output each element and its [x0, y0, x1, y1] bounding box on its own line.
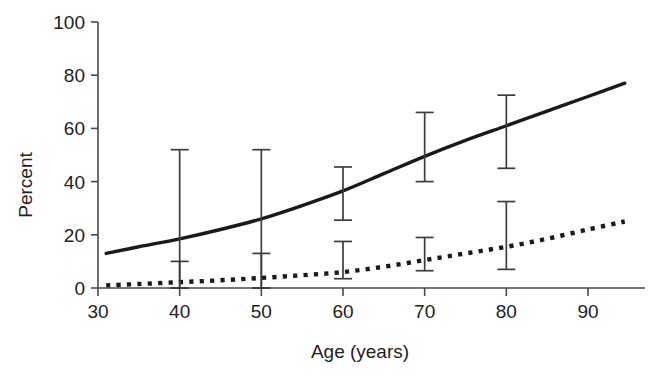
- y-axis-tick-label: 0: [74, 278, 85, 299]
- x-axis-tick-label: 40: [169, 301, 190, 322]
- error-bars-group: [171, 95, 516, 288]
- x-axis-title: Age (years): [311, 341, 409, 362]
- data-series-group: [106, 83, 625, 285]
- error-bar: [416, 112, 434, 181]
- error-bar: [497, 202, 515, 270]
- x-axis-tick-label: 70: [414, 301, 435, 322]
- y-axis-tick-label: 20: [64, 225, 85, 246]
- y-axis-title: Percent: [15, 152, 36, 218]
- x-axis-tick-label: 60: [332, 301, 353, 322]
- y-axis-tick-label: 60: [64, 118, 85, 139]
- x-axis-tick-label: 30: [87, 301, 108, 322]
- y-axis-tick-label: 100: [53, 12, 85, 33]
- chart-figure: 02040608010030405060708090 Percent Age (…: [0, 0, 650, 380]
- x-axis-tick-label: 50: [251, 301, 272, 322]
- error-bar: [252, 253, 270, 288]
- error-bar: [497, 95, 515, 168]
- y-axis-tick-label: 80: [64, 65, 85, 86]
- error-bar: [416, 237, 434, 270]
- x-axis-tick-label: 90: [577, 301, 598, 322]
- x-axis-tick-label: 80: [496, 301, 517, 322]
- error-bar: [171, 261, 189, 288]
- solid-series-line: [106, 83, 625, 253]
- y-axis-tick-label: 40: [64, 172, 85, 193]
- chart-plot-area: 02040608010030405060708090 Percent Age (…: [0, 0, 650, 380]
- dotted-series-line: [106, 222, 625, 286]
- axes-group: [91, 22, 645, 296]
